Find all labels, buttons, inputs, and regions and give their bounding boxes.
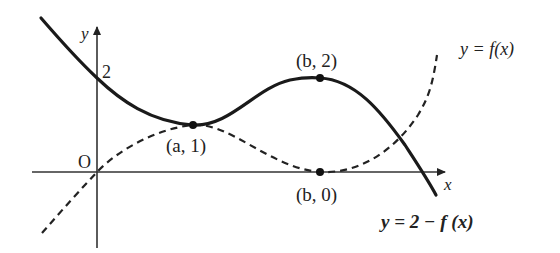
diagram-canvas: y x O 2 (a, 1) (b, 2) (b, 0) y = f(x) y … <box>0 0 560 253</box>
y-axis-label: y <box>79 24 89 43</box>
point-a-1 <box>189 121 197 129</box>
point-b-2-label: (b, 2) <box>296 50 337 72</box>
point-b-0 <box>316 168 324 176</box>
point-b-0-label: (b, 0) <box>296 184 337 206</box>
point-a-1-label: (a, 1) <box>166 135 206 157</box>
point-b-2 <box>316 74 324 82</box>
graph-svg: y x O 2 (a, 1) (b, 2) (b, 0) y = f(x) y … <box>0 0 560 253</box>
origin-label: O <box>78 152 91 172</box>
curve-f-label: y = f(x) <box>458 39 514 60</box>
y-tick-label-2: 2 <box>102 62 111 82</box>
x-axis-label: x <box>443 175 452 194</box>
curve-g-label: y = 2 − f (x) <box>379 211 474 233</box>
